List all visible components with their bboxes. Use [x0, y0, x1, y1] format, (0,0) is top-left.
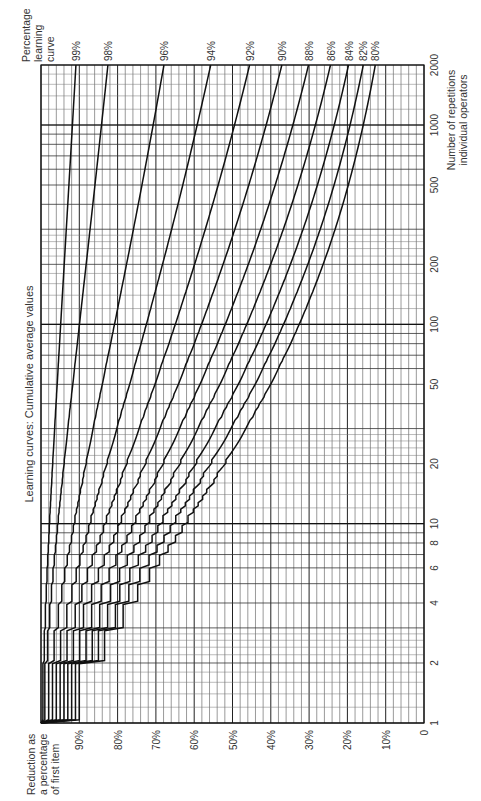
- learning-curve-98pct: [41, 65, 108, 723]
- learning-curves: [41, 65, 375, 723]
- series-label: 92%: [245, 41, 256, 61]
- learning-curve-90pct: [41, 65, 282, 723]
- x-axis-label-line-2: individual operators: [457, 74, 469, 165]
- x-tick-label: 1: [429, 720, 440, 726]
- learning-curve-94pct: [41, 65, 211, 723]
- y-axis-label: Reduction as a percentage of first item: [25, 734, 61, 795]
- series-labels: 99%98%96%94%92%90%88%86%84%82%80%: [71, 41, 381, 61]
- y-tick-label: 90%: [74, 730, 85, 750]
- x-tick-label: 20: [429, 458, 440, 470]
- legend-title-line-2: learning: [32, 24, 44, 62]
- x-tick-label: 200: [429, 256, 440, 273]
- y-tick-label: 70%: [151, 730, 162, 750]
- y-axis-label-line-2: a percentage: [37, 734, 49, 795]
- series-label: 96%: [159, 41, 170, 61]
- x-tick-label: 2: [429, 660, 440, 666]
- x-tick-label: 10: [429, 518, 440, 530]
- x-tick-label: 4: [429, 600, 440, 606]
- y-tick-label: 0: [419, 730, 430, 736]
- series-label: 80%: [370, 41, 381, 61]
- y-axis-label-line-3: of first item: [49, 743, 61, 795]
- x-axis-label-line-1: Number of repetitions: [445, 70, 457, 170]
- x-tick-label: 100: [429, 316, 440, 333]
- y-tick-label: 20%: [342, 730, 353, 750]
- y-axis-label-line-1: Reduction as: [25, 734, 37, 795]
- chart-title: Learning curves: Cumulative average valu…: [23, 285, 35, 503]
- y-tick-label: 80%: [113, 730, 124, 750]
- y-axis-ticks: 010%20%30%40%50%60%70%80%90%: [74, 730, 430, 750]
- y-tick-label: 30%: [304, 730, 315, 750]
- series-label: 98%: [103, 41, 114, 61]
- x-tick-label: 2000: [429, 53, 440, 76]
- learning-curve-86pct: [41, 65, 330, 723]
- x-tick-label: 6: [429, 565, 440, 571]
- y-tick-label: 40%: [266, 730, 277, 750]
- legend-title-line-3: curve: [44, 36, 56, 62]
- x-tick-label: 500: [429, 176, 440, 193]
- x-axis-label: Number of repetitions individual operato…: [445, 70, 469, 170]
- series-label: 94%: [206, 41, 217, 61]
- series-label: 84%: [344, 41, 355, 61]
- legend-title-line-1: Percentage: [20, 8, 32, 62]
- y-tick-label: 50%: [228, 730, 239, 750]
- x-axis-ticks: 1246810205010020050010002000: [429, 53, 440, 725]
- x-tick-label: 8: [429, 540, 440, 546]
- series-label: 90%: [277, 41, 288, 61]
- series-label: 82%: [358, 41, 369, 61]
- learning-curve-chart: Learning curves: Cumulative average valu…: [0, 0, 481, 801]
- series-label: 86%: [326, 41, 337, 61]
- legend-title: Percentage learning curve: [20, 8, 56, 62]
- series-label: 99%: [71, 41, 82, 61]
- y-tick-label: 60%: [189, 730, 200, 750]
- x-tick-label: 1000: [429, 113, 440, 136]
- y-tick-label: 10%: [381, 730, 392, 750]
- x-tick-label: 50: [429, 378, 440, 390]
- series-label: 88%: [304, 41, 315, 61]
